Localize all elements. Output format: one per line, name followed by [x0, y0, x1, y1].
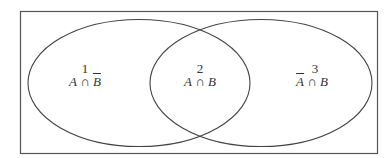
region-2-set-a: A [184, 74, 192, 89]
region-2-set-b: B [208, 74, 216, 89]
region-2-label: 2 A ∩ B [170, 62, 230, 88]
region-3-label: 3 A ∩ B [282, 62, 342, 88]
region-3-intersection: ∩ [304, 74, 320, 89]
region-1-set-b-complement: B [93, 74, 101, 89]
region-1-set-a: A [69, 74, 77, 89]
region-1-intersection: ∩ [77, 74, 93, 89]
region-1-label: 1 A ∩ B [55, 62, 115, 88]
region-1-expression: A ∩ B [55, 75, 115, 88]
region-3-set-b: B [320, 74, 328, 89]
region-3-set-a-complement: A [296, 74, 304, 89]
region-2-expression: A ∩ B [170, 75, 230, 88]
region-3-expression: A ∩ B [282, 75, 342, 88]
region-2-intersection: ∩ [192, 74, 208, 89]
